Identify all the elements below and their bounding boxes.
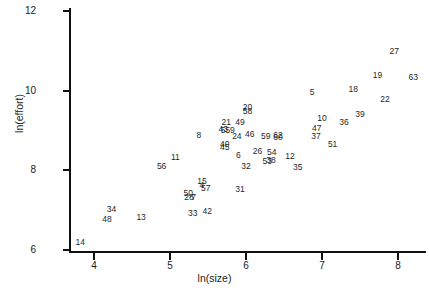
x-tick-4	[93, 253, 95, 260]
x-tick-label-8: 8	[388, 261, 408, 271]
data-point-13: 13	[136, 212, 145, 221]
data-point-37: 37	[311, 131, 320, 140]
y-tick-label-6: 6	[12, 245, 36, 255]
data-point-36: 36	[339, 118, 348, 127]
data-point-46: 46	[245, 130, 254, 139]
data-point-58: 58	[243, 106, 252, 115]
data-point-10: 10	[317, 114, 326, 123]
data-point-42: 42	[203, 206, 212, 215]
y-tick-label-12: 12	[12, 6, 36, 16]
data-point-55: 55	[221, 126, 230, 135]
y-tick-6	[63, 249, 70, 251]
data-point-5: 5	[310, 87, 315, 96]
y-tick-label-8: 8	[12, 165, 36, 175]
x-tick-label-6: 6	[236, 261, 256, 271]
data-point-24: 24	[232, 131, 241, 140]
x-tick-label-4: 4	[84, 261, 104, 271]
data-point-22: 22	[380, 94, 389, 103]
data-point-18: 18	[348, 84, 357, 93]
data-point-11: 11	[171, 153, 180, 162]
data-point-32: 32	[241, 161, 250, 170]
data-point-8: 8	[197, 131, 202, 140]
data-point-6: 6	[236, 150, 241, 159]
data-point-59: 59	[261, 132, 270, 141]
data-point-49: 49	[235, 117, 244, 126]
data-point-31: 31	[235, 185, 244, 194]
data-point-26: 26	[253, 147, 262, 156]
x-tick-8	[397, 253, 399, 260]
data-point-19: 19	[373, 71, 382, 80]
plot-data-area: 1448341356115028733154574282143559492058…	[70, 8, 422, 253]
data-point-57: 57	[201, 184, 210, 193]
y-tick-10	[63, 90, 70, 92]
x-tick-label-5: 5	[160, 261, 180, 271]
data-point-39: 39	[355, 109, 364, 118]
y-axis-title: ln(effort)	[14, 79, 25, 149]
data-point-27: 27	[389, 46, 398, 55]
data-point-45: 45	[220, 142, 229, 151]
data-point-38: 38	[266, 156, 275, 165]
data-point-14: 14	[76, 238, 85, 247]
data-point-63: 63	[408, 72, 417, 81]
y-tick-12	[63, 10, 70, 12]
data-point-48: 48	[102, 214, 111, 223]
data-point-7: 7	[191, 192, 196, 201]
data-point-60: 60	[273, 132, 282, 141]
data-point-35: 35	[293, 162, 302, 171]
data-point-34: 34	[107, 204, 116, 213]
scatter-plot-figure: 681012 45678 ln(effort) ln(size) 1448341…	[0, 0, 429, 288]
x-axis-title: ln(size)	[0, 273, 429, 284]
x-tick-label-7: 7	[312, 261, 332, 271]
data-point-33: 33	[188, 208, 197, 217]
data-point-51: 51	[328, 139, 337, 148]
data-point-12: 12	[285, 151, 294, 160]
data-point-56: 56	[157, 162, 166, 171]
x-tick-5	[169, 253, 171, 260]
x-tick-7	[321, 253, 323, 260]
y-tick-8	[63, 169, 70, 171]
x-tick-6	[245, 253, 247, 260]
